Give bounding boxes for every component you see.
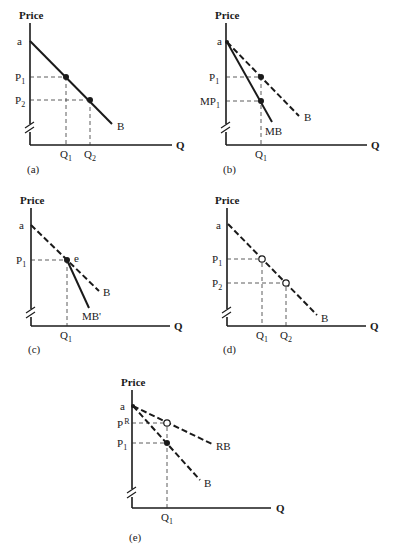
x-axis-label: Q bbox=[174, 320, 183, 332]
price-label-P2: P2 bbox=[15, 94, 25, 109]
quantity-label-Q1: Q1 bbox=[60, 148, 72, 163]
panel-caption-e: (e) bbox=[129, 531, 142, 544]
curve-label-B: B bbox=[117, 120, 124, 132]
rent-seeking-benefit-curve-RB bbox=[133, 406, 212, 444]
marginal-benefit-curve-MB-prime bbox=[67, 260, 89, 308]
curve-label-B: B bbox=[204, 477, 211, 489]
curve-label-RB: RB bbox=[216, 440, 231, 452]
y-axis-label: Price bbox=[19, 9, 44, 21]
point-filled-e bbox=[64, 257, 70, 263]
intercept-label-a: a bbox=[217, 35, 222, 47]
intercept-label-a: a bbox=[19, 219, 24, 231]
x-axis-label: Q bbox=[370, 320, 379, 332]
panel-d: Price Q a B P1 P2 Q1 Q2 (d) bbox=[212, 194, 379, 356]
quantity-label-Q1: Q1 bbox=[255, 148, 267, 163]
quantity-label-Q2: Q2 bbox=[280, 329, 292, 344]
y-axis-label: Price bbox=[215, 194, 240, 206]
curve-label-B: B bbox=[304, 111, 311, 123]
price-label-PR: PR bbox=[117, 417, 130, 430]
demand-curve-B bbox=[228, 224, 317, 315]
price-label-P2: P2 bbox=[212, 277, 222, 292]
intercept-label-a: a bbox=[120, 400, 125, 412]
curve-label-MB-prime: MB' bbox=[82, 310, 101, 322]
quantity-label-Q1: Q1 bbox=[60, 329, 72, 344]
price-label-MP1: MP1 bbox=[200, 95, 220, 110]
intercept-label-a: a bbox=[17, 35, 22, 47]
panel-caption-c: (c) bbox=[28, 343, 41, 356]
panel-caption-b: (b) bbox=[223, 163, 236, 176]
point-filled bbox=[258, 98, 264, 104]
demand-curve-B bbox=[30, 41, 112, 124]
curve-label-MB: MB bbox=[265, 125, 282, 137]
panel-a: Price Q a B P1 P2 Q1 Q2 (a) bbox=[15, 9, 185, 176]
quantity-label-Q1: Q1 bbox=[256, 329, 268, 344]
price-label-P1: P1 bbox=[15, 71, 25, 86]
panel-e: Price Q a RB B PR P1 Q1 (e) bbox=[117, 376, 285, 544]
quantity-label-Q2: Q2 bbox=[84, 148, 96, 163]
point-open bbox=[283, 280, 289, 286]
panel-c: Price Q a B MB' e P1 Q1 (c) bbox=[16, 194, 183, 356]
y-axis-label: Price bbox=[20, 194, 45, 206]
intercept-label-a: a bbox=[216, 219, 221, 231]
point-open bbox=[259, 256, 265, 262]
point-open bbox=[164, 420, 170, 426]
point-label-e: e bbox=[74, 252, 79, 264]
y-axis-label: Price bbox=[215, 9, 240, 21]
price-label-P1: P1 bbox=[212, 253, 222, 268]
panel-b: Price Q a B MB P1 MP1 Q1 (b) bbox=[200, 9, 380, 176]
economics-diagram-figure: Price Q a B P1 P2 Q1 Q2 (a) Price bbox=[0, 0, 395, 556]
panel-caption-d: (d) bbox=[223, 343, 236, 356]
price-label-P1: P1 bbox=[117, 437, 127, 452]
point-filled bbox=[164, 440, 170, 446]
x-axis-label: Q bbox=[176, 139, 185, 151]
point-filled bbox=[87, 97, 93, 103]
panel-caption-a: (a) bbox=[27, 163, 40, 176]
curve-label-B: B bbox=[321, 312, 328, 324]
price-label-P1: P1 bbox=[16, 254, 26, 269]
point-filled bbox=[63, 74, 69, 80]
y-axis-label: Price bbox=[121, 376, 146, 388]
x-axis-label: Q bbox=[371, 139, 380, 151]
quantity-label-Q1: Q1 bbox=[161, 511, 173, 526]
point-filled bbox=[258, 74, 264, 80]
curve-label-B: B bbox=[103, 286, 110, 298]
x-axis-label: Q bbox=[276, 502, 285, 514]
price-label-P1: P1 bbox=[209, 71, 219, 86]
